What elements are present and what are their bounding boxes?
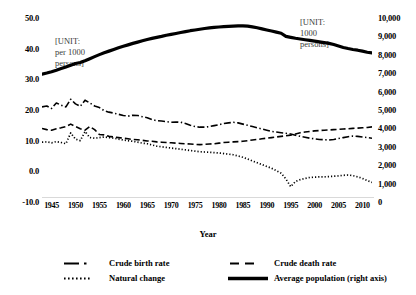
legend-label: Natural change bbox=[109, 273, 165, 283]
right-axis-tick: 2,000 bbox=[378, 160, 414, 170]
left-axis-tick: 0.0 bbox=[5, 166, 39, 176]
legend-swatch-dot bbox=[63, 274, 103, 283]
x-axis-title: Year bbox=[0, 229, 416, 239]
legend-label: Crude birth rate bbox=[109, 258, 169, 268]
x-axis-tick: 1990 bbox=[254, 201, 280, 210]
left-axis-tick: -10.0 bbox=[5, 197, 39, 207]
right-axis-tick: 9,000 bbox=[378, 31, 414, 41]
legend-item-natural-change[interactable]: Natural change bbox=[63, 273, 165, 283]
x-axis-tick: 1975 bbox=[182, 201, 208, 210]
legend-item-crude-birth-rate[interactable]: Crude birth rate bbox=[63, 258, 169, 268]
x-axis-tick: 2005 bbox=[326, 201, 352, 210]
x-axis-tick: 1950 bbox=[62, 201, 88, 210]
x-axis-tick: 2000 bbox=[302, 201, 328, 210]
right-axis-tick: 4,000 bbox=[378, 123, 414, 133]
x-axis-tick: 1960 bbox=[110, 201, 136, 210]
x-axis-tick: 1945 bbox=[39, 201, 65, 210]
legend-swatch-solid bbox=[228, 274, 268, 283]
left-axis-tick: 20.0 bbox=[5, 105, 39, 115]
legend-item-average-population[interactable]: Average population (right axis) bbox=[228, 273, 387, 283]
legend-item-crude-death-rate[interactable]: Crude death rate bbox=[228, 258, 336, 268]
legend-label: Average population (right axis) bbox=[274, 273, 387, 283]
right-axis-tick: 1,000 bbox=[378, 179, 414, 189]
right-axis-tick: 10,000 bbox=[378, 13, 414, 23]
legend-swatch-dash-dot bbox=[63, 259, 103, 268]
right-axis-tick: 0 bbox=[378, 197, 414, 207]
series-line-average-population-right-axis bbox=[42, 26, 372, 74]
x-axis-tick: 1985 bbox=[230, 201, 256, 210]
x-axis-tick: 1955 bbox=[86, 201, 112, 210]
x-axis-tick: 1970 bbox=[158, 201, 184, 210]
right-axis-tick: 6,000 bbox=[378, 87, 414, 97]
x-axis-tick: 1965 bbox=[134, 201, 160, 210]
left-axis-tick: 10.0 bbox=[5, 136, 39, 146]
left-axis-tick: 40.0 bbox=[5, 44, 39, 54]
x-axis-tick: 1980 bbox=[206, 201, 232, 210]
legend-label: Crude death rate bbox=[274, 258, 336, 268]
series-canvas bbox=[42, 18, 372, 202]
legend-swatch-dash bbox=[228, 259, 268, 268]
population-statistics-chart: 50.040.030.020.010.00.0-10.0 10,0009,000… bbox=[0, 0, 416, 295]
left-axis-tick: 50.0 bbox=[5, 13, 39, 23]
x-axis-tick: 1995 bbox=[278, 201, 304, 210]
right-axis-tick: 8,000 bbox=[378, 50, 414, 60]
left-axis-tick: 30.0 bbox=[5, 74, 39, 84]
legend: Crude birth rate Crude death rate Natura… bbox=[0, 258, 416, 292]
right-axis-tick: 7,000 bbox=[378, 68, 414, 78]
plot-area bbox=[42, 18, 372, 202]
right-axis-tick: 5,000 bbox=[378, 105, 414, 115]
x-axis-tick: 2010 bbox=[349, 201, 375, 210]
right-axis-tick: 3,000 bbox=[378, 142, 414, 152]
series-line-crude-birth-rate bbox=[42, 99, 372, 140]
